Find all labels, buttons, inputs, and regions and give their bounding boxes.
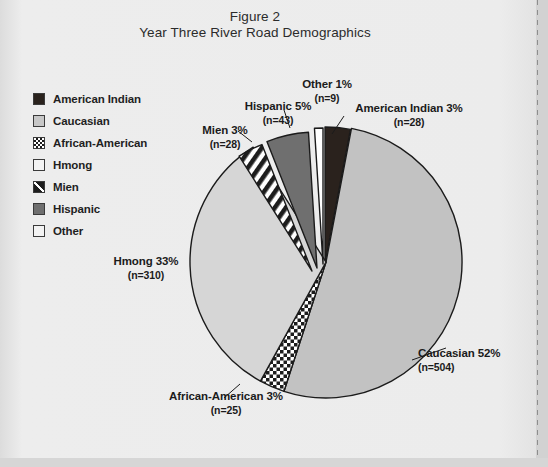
legend-item-hmong: Hmong xyxy=(33,154,183,175)
legend-label: Other xyxy=(53,225,83,237)
chart-legend: American Indian Caucasian African-Americ… xyxy=(33,88,183,242)
page-bottom-margin xyxy=(0,458,548,467)
legend-label: American Indian xyxy=(53,93,141,105)
callout-main: Hispanic 5% xyxy=(245,100,312,112)
diagonal-stripe-swatch-icon xyxy=(33,181,45,193)
figure-page: Figure 2 Year Three River Road Demograph… xyxy=(0,0,548,467)
white-swatch-icon xyxy=(33,159,45,171)
legend-item-caucasian: Caucasian xyxy=(33,110,183,131)
figure-number: Figure 2 xyxy=(0,9,510,25)
checker-swatch-icon xyxy=(33,137,45,149)
figure-subtitle: Year Three River Road Demographics xyxy=(0,25,510,41)
callout-mien: Mien 3% (n=28) xyxy=(186,124,264,151)
callout-american-indian: American Indian 3% (n=28) xyxy=(344,102,474,129)
callout-african-american: African-American 3% (n=25) xyxy=(152,390,300,417)
callout-main: American Indian 3% xyxy=(355,102,462,114)
callout-count: (n=25) xyxy=(152,404,300,418)
legend-item-hispanic: Hispanic xyxy=(33,198,183,219)
legend-label: Hmong xyxy=(53,159,92,171)
solid-dark-swatch-icon xyxy=(33,93,45,105)
callout-main: Hmong 33% xyxy=(114,255,179,267)
callout-hispanic: Hispanic 5% (n=43) xyxy=(232,100,324,127)
callout-count: (n=504) xyxy=(418,361,536,375)
legend-label: Mien xyxy=(53,181,79,193)
legend-label: Caucasian xyxy=(53,115,110,127)
white-swatch-icon xyxy=(33,225,45,237)
callout-main: Mien 3% xyxy=(202,124,247,136)
legend-label: African-American xyxy=(53,137,147,149)
figure-title-block: Figure 2 Year Three River Road Demograph… xyxy=(0,9,510,41)
light-gray-swatch-icon xyxy=(33,115,45,127)
legend-item-american-indian: American Indian xyxy=(33,88,183,109)
callout-main: African-American 3% xyxy=(169,390,283,402)
mid-gray-swatch-icon xyxy=(33,203,45,215)
legend-item-mien: Mien xyxy=(33,176,183,197)
callout-count: (n=28) xyxy=(186,138,264,152)
callout-hmong: Hmong 33% (n=310) xyxy=(94,255,198,282)
callout-count: (n=310) xyxy=(94,269,198,283)
legend-label: Hispanic xyxy=(53,203,100,215)
legend-item-other: Other xyxy=(33,220,183,241)
callout-count: (n=28) xyxy=(344,116,474,130)
callout-main: Other 1% xyxy=(302,78,352,90)
callout-main: Caucasian 52% xyxy=(418,347,500,359)
dotted-rule-divider xyxy=(537,0,538,467)
legend-item-african-american: African-American xyxy=(33,132,183,153)
callout-caucasian: Caucasian 52% (n=504) xyxy=(418,347,536,374)
